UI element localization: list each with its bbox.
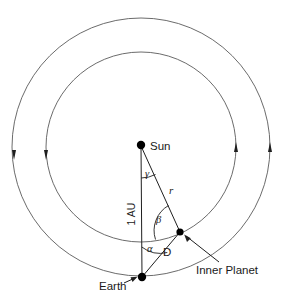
inner-planet-dot bbox=[176, 228, 183, 235]
distance-au-label: 1 AU bbox=[125, 203, 137, 226]
bodies-group bbox=[137, 141, 184, 281]
earth-label: Earth bbox=[99, 280, 127, 292]
angle-alpha-label: α bbox=[147, 243, 153, 254]
inner-orbit-arrow-left-icon bbox=[44, 150, 48, 160]
triangle-group bbox=[141, 146, 180, 277]
inner-orbit-arrow-right-icon bbox=[234, 142, 238, 152]
earth-dot bbox=[138, 273, 146, 281]
segment-earth-planet bbox=[142, 232, 180, 277]
diagram-canvas: Sun Earth Inner Planet 1 AU r D γ β α bbox=[0, 0, 282, 304]
earth-leader-arrow-icon bbox=[131, 277, 138, 282]
angle-beta-label: β bbox=[155, 214, 162, 225]
radius-r-label: r bbox=[169, 184, 174, 196]
inner-planet-leader-line bbox=[186, 236, 219, 262]
sun-dot bbox=[137, 141, 145, 149]
segment-sun-earth bbox=[141, 146, 142, 277]
earth-orbit-arrow-right-icon bbox=[268, 142, 272, 152]
orbit-geometry-diagram: Sun Earth Inner Planet 1 AU r D γ β α bbox=[0, 0, 282, 304]
distance-d-label: D bbox=[163, 246, 171, 258]
inner-planet-label: Inner Planet bbox=[196, 264, 259, 276]
sun-label: Sun bbox=[150, 140, 170, 152]
inner-planet-leader-arrow-icon bbox=[184, 235, 191, 243]
